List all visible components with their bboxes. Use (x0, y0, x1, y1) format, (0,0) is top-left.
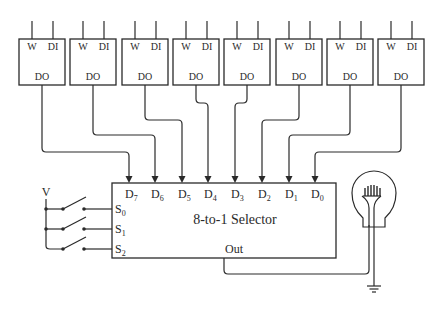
select-switches: V (42, 185, 112, 251)
select-label-s0: S0 (115, 202, 126, 218)
arrow-icon (126, 176, 133, 183)
input-label-d5: D5 (178, 187, 191, 203)
data-out-label: DO (35, 71, 49, 82)
data-in-label: DI (356, 41, 367, 52)
out-label: Out (225, 242, 244, 256)
data-in-label: DI (305, 41, 316, 52)
write-label: W (130, 41, 140, 52)
select-label-s2: S2 (115, 242, 126, 258)
arrow-icon (179, 176, 186, 183)
switch-s0[interactable] (63, 197, 112, 209)
data-wires (42, 85, 401, 183)
wire-d6 (93, 85, 155, 176)
switch-s2[interactable] (63, 237, 112, 249)
data-out-label: DO (189, 71, 203, 82)
arrow-icon (286, 176, 293, 183)
arrow-icon (152, 176, 159, 183)
write-label: W (335, 41, 345, 52)
write-label: W (284, 41, 294, 52)
write-label: W (232, 41, 242, 52)
data-out-label: DO (138, 71, 152, 82)
memory-cell-2: WDIDO (276, 21, 322, 85)
arrow-icon (232, 176, 239, 183)
select-label-s1: S1 (115, 222, 126, 238)
data-in-label: DI (253, 41, 264, 52)
select-input-labels: S0S1S2 (115, 202, 126, 258)
input-label-d1: D1 (285, 187, 298, 203)
data-in-label: DI (48, 41, 59, 52)
voltage-rail (46, 199, 63, 249)
data-in-label: DI (99, 41, 110, 52)
voltage-label: V (42, 185, 51, 199)
data-out-label: DO (343, 71, 357, 82)
input-label-d7: D7 (125, 187, 138, 203)
wire-d2 (262, 85, 299, 176)
wire-d3 (235, 85, 247, 176)
data-in-label: DI (151, 41, 162, 52)
memory-cell-1: WDIDO (327, 21, 373, 85)
selector: D7D6D5D4D3D2D1D0 S0S1S2 8-to-1 Selector … (112, 183, 336, 258)
data-out-label: DO (292, 71, 306, 82)
arrow-icon (205, 176, 212, 183)
memory-cell-4: WDIDO (173, 21, 219, 85)
write-label: W (181, 41, 191, 52)
selector-title: 8-to-1 Selector (193, 212, 277, 227)
arrow-icon (312, 176, 319, 183)
input-label-d6: D6 (151, 187, 164, 203)
wire-d5 (145, 85, 182, 176)
memory-cell-6: WDIDO (70, 21, 116, 85)
memory-cell-5: WDIDO (122, 21, 168, 85)
data-out-label: DO (394, 71, 408, 82)
data-in-label: DI (407, 41, 418, 52)
memory-cell-7: WDIDO (19, 21, 65, 85)
memory-cells: WDIDOWDIDOWDIDOWDIDOWDIDOWDIDOWDIDOWDIDO (19, 21, 424, 85)
switch-s1[interactable] (63, 217, 112, 229)
arrow-icon (259, 176, 266, 183)
input-label-d3: D3 (231, 187, 244, 203)
input-label-d2: D2 (258, 187, 271, 203)
light-bulb-icon (352, 171, 396, 227)
circuit-diagram: WDIDOWDIDOWDIDOWDIDOWDIDOWDIDOWDIDOWDIDO… (0, 0, 442, 311)
data-out-label: DO (86, 71, 100, 82)
write-label: W (27, 41, 37, 52)
write-label: W (386, 41, 396, 52)
wire-d7 (42, 85, 129, 176)
data-out-label: DO (240, 71, 254, 82)
input-label-d0: D0 (311, 187, 324, 203)
write-label: W (78, 41, 88, 52)
wire-d1 (289, 85, 350, 176)
memory-cell-3: WDIDO (224, 21, 270, 85)
data-in-label: DI (202, 41, 213, 52)
output-wire (224, 225, 369, 274)
wire-d4 (196, 85, 208, 176)
input-label-d4: D4 (204, 187, 217, 203)
wire-d0 (315, 85, 401, 176)
memory-cell-0: WDIDO (378, 21, 424, 85)
data-input-labels: D7D6D5D4D3D2D1D0 (125, 187, 324, 203)
